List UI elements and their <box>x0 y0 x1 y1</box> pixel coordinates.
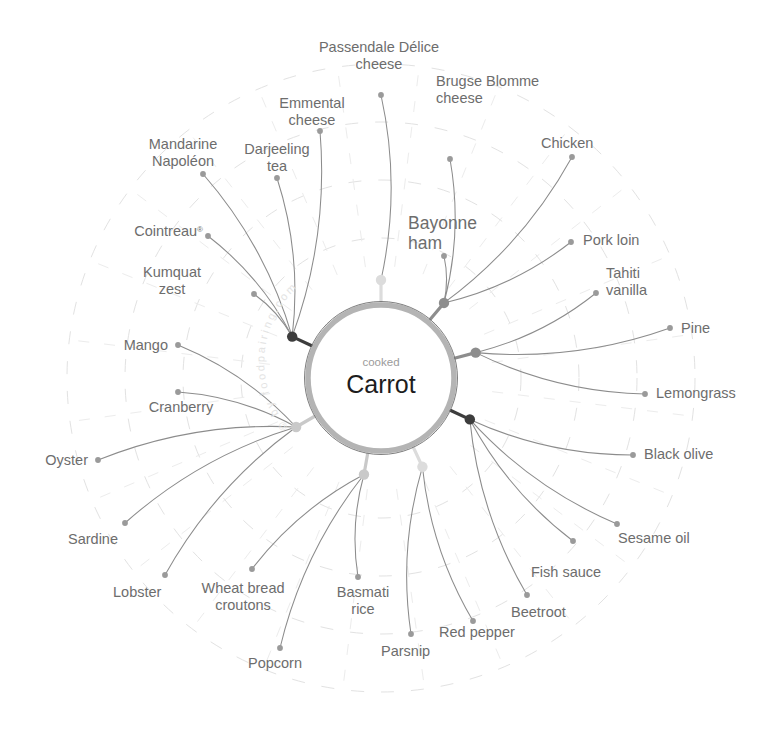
node-label-oyster[interactable]: Oyster <box>45 452 88 468</box>
pairing-edge <box>292 131 321 337</box>
node-label-kumquat[interactable]: Kumquatzest <box>143 264 201 297</box>
leaf-node-popcorn[interactable] <box>277 645 283 651</box>
pairing-edge <box>470 419 633 455</box>
leaf-node-fishsauce[interactable] <box>570 538 576 544</box>
node-label-mango[interactable]: Mango <box>124 337 168 353</box>
node-label-lobster[interactable]: Lobster <box>113 584 162 600</box>
leaf-node-mango[interactable] <box>175 342 181 348</box>
node-label-mandarine[interactable]: MandarineNapoléon <box>149 136 218 169</box>
node-label-beetroot[interactable]: Beetroot <box>511 604 566 620</box>
leaf-node-brugse[interactable] <box>447 156 453 162</box>
leaf-node-porkloin[interactable] <box>568 239 574 245</box>
leaf-node-chicken[interactable] <box>569 154 575 160</box>
node-label-pine[interactable]: Pine <box>681 320 710 336</box>
guide-spoke <box>336 61 365 267</box>
label-line: Mandarine <box>149 136 218 152</box>
leaf-node-emmental[interactable] <box>317 128 323 134</box>
guide-spoke <box>86 422 277 503</box>
pairing-edge <box>470 419 527 595</box>
node-label-cranberry[interactable]: Cranberry <box>149 399 214 415</box>
center-title: Carrot <box>346 370 416 398</box>
center-node[interactable]: cooked Carrot <box>305 302 458 455</box>
label-line: Popcorn <box>248 655 302 671</box>
hub-node[interactable] <box>359 469 369 479</box>
label-line: Sardine <box>68 531 118 547</box>
node-label-blackolive[interactable]: Black olive <box>644 446 713 462</box>
node-label-porkloin[interactable]: Pork loin <box>583 232 639 248</box>
label-line: Tahiti <box>606 265 640 281</box>
leaf-node-bayonne[interactable] <box>441 253 447 259</box>
leaf-node-basmati[interactable] <box>355 574 361 580</box>
hub-node[interactable] <box>470 347 480 357</box>
pairing-edge <box>208 236 292 337</box>
center-subtitle: cooked <box>362 356 399 368</box>
guide-spoke <box>125 185 291 310</box>
label-line: Red pepper <box>439 624 515 640</box>
label-line: vanilla <box>606 282 648 298</box>
label-line: Cranberry <box>149 399 214 415</box>
registered-mark: ® <box>197 225 203 234</box>
node-label-sardine[interactable]: Sardine <box>68 531 118 547</box>
label-line: cheese <box>289 112 336 128</box>
label-line: zest <box>159 281 186 297</box>
leaf-node-sesameoil[interactable] <box>614 521 620 527</box>
leaf-node-tahiti[interactable] <box>593 290 599 296</box>
leaf-node-passendale[interactable] <box>378 92 384 98</box>
leaf-node-sardine[interactable] <box>122 520 128 526</box>
leaf-node-cranberry[interactable] <box>175 389 181 395</box>
node-label-bayonne[interactable]: Bayonneham <box>408 213 477 253</box>
label-line: Sesame oil <box>618 530 690 546</box>
node-label-popcorn[interactable]: Popcorn <box>248 655 302 671</box>
node-label-cointreau[interactable]: Cointreau® <box>134 223 203 239</box>
node-label-parsnip[interactable]: Parsnip <box>381 643 430 659</box>
hub-node[interactable] <box>291 422 301 432</box>
label-line: Darjeeling <box>244 141 309 157</box>
pairing-edge <box>476 353 645 394</box>
node-label-redpepper[interactable]: Red pepper <box>439 624 515 640</box>
pairing-edge <box>470 419 573 541</box>
label-line: Bayonne <box>408 213 477 233</box>
leaf-node-pine[interactable] <box>667 325 673 331</box>
leaf-node-beetroot[interactable] <box>524 592 530 598</box>
label-line: Pine <box>681 320 710 336</box>
guide-spoke <box>425 481 506 672</box>
leaf-node-cointreau[interactable] <box>205 233 211 239</box>
leaf-node-parsnip[interactable] <box>408 631 414 637</box>
pairing-edge <box>277 178 295 337</box>
label-line: Beetroot <box>511 604 566 620</box>
leaf-node-oyster[interactable] <box>95 457 101 463</box>
label-line: croutons <box>215 597 271 613</box>
node-label-basmati[interactable]: Basmatirice <box>337 584 389 617</box>
node-label-tahiti[interactable]: Tahitivanilla <box>606 265 648 298</box>
guide-spoke <box>129 447 293 575</box>
node-label-chicken[interactable]: Chicken <box>541 135 593 151</box>
leaf-node-darjeeling[interactable] <box>274 175 280 181</box>
leaf-node-mandarine[interactable] <box>200 171 206 177</box>
leaf-node-lemongrass[interactable] <box>642 391 648 397</box>
hub-node[interactable] <box>439 298 449 308</box>
node-label-fishsauce[interactable]: Fish sauce <box>531 564 601 580</box>
label-line: Fish sauce <box>531 564 601 580</box>
label-line: Parsnip <box>381 643 430 659</box>
hub-node[interactable] <box>376 275 386 285</box>
label-line: cheese <box>356 56 403 72</box>
guide-spoke <box>261 482 339 675</box>
label-line: Kumquat <box>143 264 201 280</box>
leaf-node-blackolive[interactable] <box>630 452 636 458</box>
node-label-wheatbread[interactable]: Wheat breadcroutons <box>201 580 284 613</box>
label-line: Passendale Délice <box>319 39 439 55</box>
node-label-brugse[interactable]: Brugse Blommecheese <box>436 73 539 106</box>
leaf-node-kumquat[interactable] <box>251 291 257 297</box>
hub-node[interactable] <box>417 462 427 472</box>
node-label-passendale[interactable]: Passendale Délicecheese <box>319 39 439 72</box>
leaf-node-wheatbread[interactable] <box>249 566 255 572</box>
hub-node[interactable] <box>465 414 475 424</box>
pairing-edge <box>470 419 617 524</box>
node-label-sesameoil[interactable]: Sesame oil <box>618 530 690 546</box>
node-label-lemongrass[interactable]: Lemongrass <box>656 385 736 401</box>
label-line: tea <box>267 158 288 174</box>
leaf-node-lobster[interactable] <box>162 572 168 578</box>
node-label-darjeeling[interactable]: Darjeelingtea <box>244 141 309 174</box>
node-label-emmental[interactable]: Emmentalcheese <box>279 95 344 128</box>
hub-node[interactable] <box>287 331 297 341</box>
